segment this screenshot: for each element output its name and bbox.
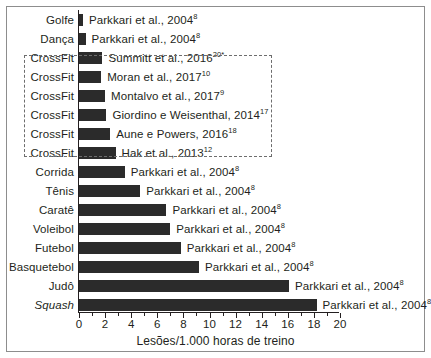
source-reference-number: 8 <box>251 183 255 192</box>
bar-source-label: Hak et al., 201312 <box>122 147 213 159</box>
source-reference-number: 18 <box>228 126 237 135</box>
source-text: Summitt et al., 2016 <box>108 52 212 64</box>
bar-chart-plot: GolfeParkkari et al., 20048DançaParkkari… <box>0 0 431 358</box>
source-reference-number: 10 <box>202 69 211 78</box>
x-tick-minor <box>170 313 171 316</box>
source-text: Parkkari et al., 2004 <box>146 185 250 197</box>
source-text: Parkkari et al., 2004 <box>187 242 291 254</box>
bar-source-label: Aune e Powers, 201618 <box>116 128 236 140</box>
source-text: Montalvo et al., 2017 <box>111 90 220 102</box>
source-reference-number: 8 <box>196 31 200 40</box>
category-label: CrossFit <box>30 71 74 83</box>
bar-row: VoleibolParkkari et al., 20048 <box>0 219 431 238</box>
bar <box>79 166 125 178</box>
bar-row: CrossFitAune e Powers, 201618 <box>0 124 431 143</box>
bar-source-label: Parkkari et al., 20048 <box>205 261 314 273</box>
source-text: Aune e Powers, 2016 <box>116 128 228 140</box>
category-label: CrossFit <box>30 128 74 140</box>
bar-row: BasquetebolParkkari et al., 20048 <box>0 257 431 276</box>
bar-row: CrossFitMontalvo et al., 20179 <box>0 86 431 105</box>
bar-source-label: Giordino e Weisenthal, 201417 <box>112 109 268 121</box>
x-tick-minor <box>327 313 328 316</box>
x-tick-minor <box>196 313 197 316</box>
source-reference-number: 8 <box>235 164 239 173</box>
bar-source-label: Parkkari et al., 20048 <box>172 204 281 216</box>
x-tick-label: 20 <box>325 318 355 330</box>
bar <box>79 109 106 121</box>
category-label: Squash <box>34 299 74 311</box>
bar-row: CrossFitHak et al., 201312 <box>0 143 431 162</box>
x-tick-minor <box>275 313 276 316</box>
source-text: Parkkari et al., 2004 <box>295 280 399 292</box>
bar-row: CrossFitMoran et al., 201710 <box>0 67 431 86</box>
bar-source-label: Parkkari et al., 20048 <box>187 242 296 254</box>
category-label: Corrida <box>36 166 74 178</box>
bar <box>79 52 102 64</box>
x-tick-minor <box>144 313 145 316</box>
source-reference-number: 8 <box>291 240 295 249</box>
bar <box>79 128 110 140</box>
x-axis-title: Lesões/1.000 horas de treino <box>0 334 431 348</box>
source-reference-number: 8 <box>281 221 285 230</box>
bar-row: CrossFitSummitt et al., 201620* <box>0 48 431 67</box>
source-reference-number: 17 <box>260 107 269 116</box>
source-reference-number: 20* <box>213 50 225 59</box>
x-tick-minor <box>301 313 302 316</box>
category-label: Golfe <box>46 14 74 26</box>
source-text: Hak et al., 2013 <box>122 147 204 159</box>
category-label: CrossFit <box>30 147 74 159</box>
source-reference-number: 8 <box>309 259 313 268</box>
source-reference-number: 8 <box>399 278 403 287</box>
source-reference-number: 8 <box>427 297 431 306</box>
bar <box>79 90 105 102</box>
bar <box>79 33 86 45</box>
bar-source-label: Summitt et al., 201620* <box>108 52 224 64</box>
x-tick-minor <box>249 313 250 316</box>
source-reference-number: 8 <box>193 12 197 21</box>
category-label: CrossFit <box>30 90 74 102</box>
x-tick-minor <box>118 313 119 316</box>
bar-row: CrossFitGiordino e Weisenthal, 201417 <box>0 105 431 124</box>
bar-source-label: Parkkari et al., 20048 <box>146 185 255 197</box>
bar-row: JudôParkkari et al., 20048 <box>0 276 431 295</box>
category-label: Futebol <box>35 242 74 254</box>
bar-row: DançaParkkari et al., 20048 <box>0 29 431 48</box>
category-label: Judô <box>49 280 74 292</box>
bar <box>79 14 83 26</box>
source-text: Parkkari et al., 2004 <box>172 204 276 216</box>
bar <box>79 223 170 235</box>
category-label: CrossFit <box>30 109 74 121</box>
bar-row: SquashParkkari et al., 20048 <box>0 295 431 314</box>
bar-source-label: Parkkari et al., 20048 <box>176 223 285 235</box>
category-label: CrossFit <box>30 52 74 64</box>
bar-row: CaratêParkkari et al., 20048 <box>0 200 431 219</box>
bar-row: TênisParkkari et al., 20048 <box>0 181 431 200</box>
source-text: Parkkari et al., 2004 <box>323 299 427 311</box>
bar-source-label: Moran et al., 201710 <box>107 71 210 83</box>
bar-row: FutebolParkkari et al., 20048 <box>0 238 431 257</box>
x-tick-minor <box>223 313 224 316</box>
bar-source-label: Parkkari et al., 20048 <box>295 280 404 292</box>
category-label: Tênis <box>45 185 74 197</box>
bar-source-label: Parkkari et al., 20048 <box>89 14 198 26</box>
x-tick-minor <box>92 313 93 316</box>
source-text: Parkkari et al., 2004 <box>89 14 193 26</box>
source-text: Giordino e Weisenthal, 2014 <box>112 109 260 121</box>
bar <box>79 242 181 254</box>
source-text: Parkkari et al., 2004 <box>205 261 309 273</box>
bar-source-label: Parkkari et al., 20048 <box>92 33 201 45</box>
category-label: Dança <box>40 33 74 45</box>
bar <box>79 204 166 216</box>
source-reference-number: 9 <box>220 88 224 97</box>
source-reference-number: 8 <box>277 202 281 211</box>
bar <box>79 299 317 311</box>
bar <box>79 147 116 159</box>
bar-source-label: Montalvo et al., 20179 <box>111 90 224 102</box>
source-text: Parkkari et al., 2004 <box>92 33 196 45</box>
bar <box>79 71 101 83</box>
figure-container: GolfeParkkari et al., 20048DançaParkkari… <box>0 0 431 358</box>
category-label: Voleibol <box>33 223 74 235</box>
bar-row: CorridaParkkari et al., 20048 <box>0 162 431 181</box>
source-text: Moran et al., 2017 <box>107 71 202 83</box>
source-text: Parkkari et al., 2004 <box>176 223 280 235</box>
